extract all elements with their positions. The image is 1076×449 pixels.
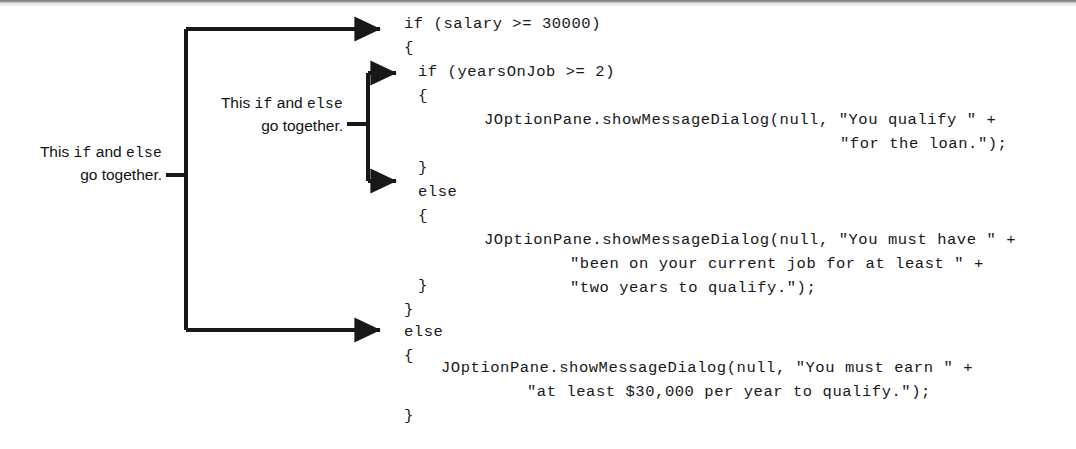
callout-line-2: go together. bbox=[185, 115, 343, 136]
code-line: } bbox=[418, 158, 428, 178]
code-line: { bbox=[418, 86, 428, 106]
keyword-if: if bbox=[254, 96, 272, 112]
callout-text-prefix: This bbox=[221, 94, 255, 111]
callout-line-1: This if and else bbox=[0, 141, 162, 164]
inner-pairing-callout: This if and else go together. bbox=[185, 92, 343, 136]
code-line: "for the loan."); bbox=[840, 134, 1007, 154]
code-line: { bbox=[418, 206, 428, 226]
outer-pairing-callout: This if and else go together. bbox=[0, 141, 162, 185]
keyword-if: if bbox=[73, 145, 91, 161]
code-line: else bbox=[404, 322, 443, 342]
code-line: JOptionPane.showMessageDialog(null, "You… bbox=[441, 358, 973, 378]
figure-root: if (salary >= 30000) { if (yearsOnJob >=… bbox=[0, 0, 1076, 449]
callout-text-middle: and bbox=[273, 94, 307, 111]
code-line: } bbox=[404, 406, 414, 426]
code-line: JOptionPane.showMessageDialog(null, "You… bbox=[484, 110, 996, 130]
keyword-else: else bbox=[126, 145, 162, 161]
code-line: if (yearsOnJob >= 2) bbox=[418, 62, 615, 82]
code-line: JOptionPane.showMessageDialog(null, "You… bbox=[484, 230, 1016, 250]
code-line: if (salary >= 30000) bbox=[404, 14, 601, 34]
callout-text-middle: and bbox=[92, 143, 126, 160]
code-line: "two years to qualify."); bbox=[570, 278, 816, 298]
code-line: { bbox=[404, 346, 414, 366]
code-line: } bbox=[418, 276, 428, 296]
code-listing: if (salary >= 30000) { if (yearsOnJob >=… bbox=[0, 0, 1076, 449]
keyword-else: else bbox=[307, 96, 343, 112]
callout-line-1: This if and else bbox=[185, 92, 343, 115]
code-line: { bbox=[404, 38, 414, 58]
code-line: "at least $30,000 per year to qualify.")… bbox=[527, 382, 931, 402]
code-line: else bbox=[418, 182, 457, 202]
callout-text-prefix: This bbox=[40, 143, 74, 160]
callout-line-2: go together. bbox=[0, 164, 162, 185]
code-line: "been on your current job for at least "… bbox=[570, 254, 984, 274]
code-line: } bbox=[404, 300, 414, 320]
